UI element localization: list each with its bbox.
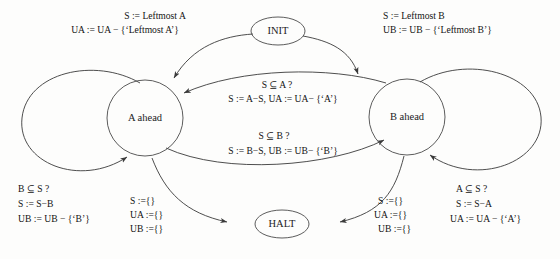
a-to-halt-line-2: UA :={} [130,209,163,220]
edge-label-a-self-loop: B ⊆ S ? S := S−B UB := UB − {‘B’} [18,183,90,224]
b-self-loop-path [420,69,541,170]
b-to-halt-line-3: UB :={} [378,223,411,234]
a-ahead-label: A ahead [128,112,163,123]
state-diagram-container: INIT A ahead B ahead HALT S := Leftmost … [0,0,560,259]
node-halt[interactable]: HALT [255,210,309,238]
edge-b-self-loop [420,69,541,170]
edge-label-init-to-a: S := Leftmost A UA := UA − {‘Leftmost A’… [71,10,186,35]
init-to-b-line-1: S := Leftmost B [383,10,445,21]
init-to-b-line-2: UB := UB − {‘Leftmost B’} [383,24,492,35]
edge-init-to-a [174,34,253,78]
init-to-a-line-2: UA := UA − {‘Leftmost A’} [71,24,179,35]
edge-label-a-to-halt: S :={} UA :={} UB :={} [130,195,163,234]
a-self-loop-line-3: UB := UB − {‘B’} [18,213,90,224]
a-to-b-line-1: S ⊆ B ? [258,130,289,141]
a-to-halt-path [152,158,227,222]
a-self-loop-path [22,70,140,170]
b-self-loop-line-1: A ⊆ S ? [456,183,487,194]
edge-a-self-loop [22,70,140,170]
init-to-a-path [174,34,253,78]
a-to-b-line-2: S := B−S, UB := UB− {‘B’} [228,145,338,156]
edge-label-init-to-b: S := Leftmost B UB := UB − {‘Leftmost B’… [383,10,492,35]
edge-label-b-to-halt: S :={} UA :={} UB :={} [374,195,411,234]
edge-label-b-to-a: S ⊆ A ? S := A−S, UA := UA− {‘A’} [228,79,337,104]
b-self-loop-line-3: UA := UA − {‘A’} [450,213,521,224]
init-to-b-path [303,36,358,74]
edge-label-a-to-b: S ⊆ B ? S := B−S, UB := UB− {‘B’} [228,130,338,156]
halt-label: HALT [268,218,296,229]
node-a-ahead[interactable]: A ahead [107,80,183,156]
node-init[interactable]: INIT [251,17,305,45]
init-label: INIT [268,25,290,36]
state-diagram-canvas: INIT A ahead B ahead HALT S := Leftmost … [0,0,560,259]
b-ahead-label: B ahead [390,111,425,122]
a-to-halt-line-3: UB :={} [130,223,163,234]
a-self-loop-line-2: S := S−B [18,198,53,209]
b-self-loop-line-2: S := S−A [456,198,492,209]
init-to-a-line-1: S := Leftmost A [124,10,186,21]
b-to-a-line-1: S ⊆ A ? [262,79,293,90]
edge-label-b-self-loop: A ⊆ S ? S := S−A UA := UA − {‘A’} [450,183,521,224]
b-to-halt-line-2: UA :={} [374,209,407,220]
b-to-a-line-2: S := A−S, UA := UA− {‘A’} [228,93,337,104]
edge-init-to-b [303,36,358,74]
a-self-loop-line-1: B ⊆ S ? [18,183,49,194]
a-to-halt-line-1: S :={} [130,195,155,206]
node-b-ahead[interactable]: B ahead [369,79,445,155]
edge-a-to-halt [152,158,227,222]
b-to-halt-line-1: S :={} [378,195,403,206]
